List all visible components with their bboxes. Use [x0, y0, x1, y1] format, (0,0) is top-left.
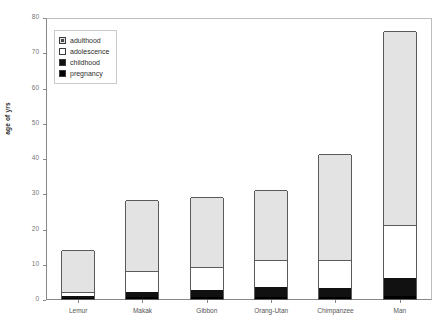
bar-slot	[239, 18, 303, 300]
y-tick-label: 70	[32, 48, 39, 55]
stacked-bar[interactable]	[61, 251, 95, 300]
bar-segment-pregnancy[interactable]	[319, 297, 351, 299]
bar-segment-childhood[interactable]	[62, 296, 94, 298]
bar-segment-adolescence[interactable]	[384, 225, 416, 278]
x-tick-label: Man	[368, 307, 432, 314]
x-tick-mark	[271, 300, 272, 303]
y-tick-label: 10	[32, 260, 39, 267]
bar-segment-adolescence[interactable]	[62, 292, 94, 296]
stacked-bar[interactable]	[190, 198, 224, 300]
bar-segment-adulthood[interactable]	[126, 200, 158, 271]
legend-swatch-icon	[59, 37, 66, 44]
bar-segment-adulthood[interactable]	[62, 250, 94, 292]
bar-segment-adulthood[interactable]	[384, 31, 416, 225]
legend-item-adolescence[interactable]: adolescence	[59, 46, 109, 57]
x-axis-slot: Orang-Utan	[239, 300, 303, 328]
legend-label: adulthood	[70, 37, 101, 44]
x-tick-label: Orang-Utan	[239, 307, 303, 314]
y-tick-label: 0	[35, 295, 39, 302]
stacked-bar[interactable]	[125, 201, 159, 300]
legend-swatch-icon	[59, 59, 66, 66]
bar-segment-pregnancy[interactable]	[384, 296, 416, 299]
bar-slot	[110, 18, 174, 300]
bar-segment-childhood[interactable]	[255, 287, 287, 297]
legend-swatch-icon	[59, 70, 66, 77]
legend-swatch-icon	[59, 48, 66, 55]
x-tick-label: Gibbon	[175, 307, 239, 314]
x-tick-mark	[78, 300, 79, 303]
x-axis-slot: Man	[368, 300, 432, 328]
bar-segment-adulthood[interactable]	[191, 197, 223, 268]
y-axis-title: age of yrs	[4, 84, 11, 154]
stacked-bar[interactable]	[318, 155, 352, 300]
y-tick-label: 60	[32, 84, 39, 91]
x-tick-mark	[400, 300, 401, 303]
bar-slot	[303, 18, 367, 300]
bar-slot	[368, 18, 432, 300]
x-tick-label: Chimpanzee	[303, 307, 367, 314]
bar-segment-pregnancy[interactable]	[191, 297, 223, 299]
legend-item-pregnancy[interactable]: pregnancy	[59, 68, 109, 79]
bar-segment-pregnancy[interactable]	[62, 298, 94, 299]
x-tick-label: Lemur	[46, 307, 110, 314]
bar-segment-adulthood[interactable]	[319, 154, 351, 260]
x-axis-slot: Lemur	[46, 300, 110, 328]
y-tick-label: 40	[32, 154, 39, 161]
x-axis-slot: Chimpanzee	[303, 300, 367, 328]
chart-legend: adulthoodadolescencechildhoodpregnancy	[54, 30, 117, 84]
stacked-bar[interactable]	[254, 191, 288, 300]
bar-segment-adolescence[interactable]	[126, 271, 158, 292]
stacked-bar[interactable]	[383, 32, 417, 300]
bar-segment-pregnancy[interactable]	[255, 297, 287, 299]
x-tick-label: Makak	[110, 307, 174, 314]
bar-segment-adolescence[interactable]	[191, 267, 223, 290]
bar-segment-childhood[interactable]	[319, 288, 351, 296]
x-axis-slot: Makak	[110, 300, 174, 328]
bar-segment-childhood[interactable]	[191, 290, 223, 297]
bar-slot	[175, 18, 239, 300]
y-tick-label: 30	[32, 189, 39, 196]
x-axis-slot: Gibbon	[175, 300, 239, 328]
y-tick-label: 50	[32, 119, 39, 126]
stacked-bar-chart: age of yrs 01020304050607080 LemurMakakG…	[0, 0, 436, 332]
y-tick-label: 80	[32, 13, 39, 20]
legend-item-childhood[interactable]: childhood	[59, 57, 109, 68]
legend-label: childhood	[70, 59, 100, 66]
legend-item-adulthood[interactable]: adulthood	[59, 35, 109, 46]
bar-segment-adolescence[interactable]	[319, 260, 351, 288]
bar-segment-adulthood[interactable]	[255, 190, 287, 261]
bar-segment-childhood[interactable]	[126, 292, 158, 297]
x-tick-mark	[207, 300, 208, 303]
bar-segment-adolescence[interactable]	[255, 260, 287, 286]
bar-segment-pregnancy[interactable]	[126, 297, 158, 299]
y-tick-label: 20	[32, 225, 39, 232]
x-tick-mark	[335, 300, 336, 303]
bar-segment-childhood[interactable]	[384, 278, 416, 297]
x-axis: LemurMakakGibbonOrang-UtanChimpanzeeMan	[46, 300, 432, 328]
x-tick-mark	[142, 300, 143, 303]
legend-label: pregnancy	[70, 70, 103, 77]
legend-label: adolescence	[70, 48, 109, 55]
